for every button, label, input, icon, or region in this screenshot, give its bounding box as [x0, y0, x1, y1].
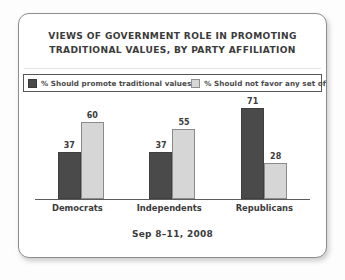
bar-value-label: 37 [146, 141, 176, 150]
chart-card: VIEWS OF GOVERNMENT ROLE IN PROMOTING TR… [18, 13, 327, 258]
bar[interactable] [149, 152, 172, 199]
chart-title-line-1: VIEWS OF GOVERNMENT ROLE IN PROMOTING [19, 30, 326, 44]
chart-title-line-2: TRADITIONAL VALUES, BY PARTY AFFILIATION [19, 44, 326, 58]
bar-value-label: 60 [77, 111, 107, 120]
bar-value-label: 28 [261, 152, 291, 161]
bar-column: 60 [81, 98, 104, 199]
bar-group: 7128 [241, 98, 287, 199]
bar[interactable] [264, 163, 287, 199]
bar-column: 71 [241, 98, 264, 199]
legend-swatch-light-icon [191, 79, 200, 88]
chart-legend: % Should promote traditional values % Sh… [23, 74, 322, 92]
title-divider [24, 68, 321, 69]
chart-footer-date: Sep 8–11, 2008 [19, 229, 326, 239]
bar-value-label: 71 [238, 97, 268, 106]
plot-area: 376037557128 DemocratsIndependentsRepubl… [23, 98, 322, 216]
chart-screenshot: VIEWS OF GOVERNMENT ROLE IN PROMOTING TR… [0, 0, 345, 280]
bar[interactable] [81, 122, 104, 199]
bar-value-label: 55 [169, 118, 199, 127]
bar-group: 3760 [58, 98, 104, 199]
legend-label-not-favor: % Should not favor any set of values [204, 79, 327, 88]
bar[interactable] [58, 152, 81, 199]
bar-column: 37 [149, 98, 172, 199]
bar-groups: 376037557128 [35, 98, 310, 199]
category-labels: DemocratsIndependentsRepublicans [35, 200, 310, 216]
bar-column: 28 [264, 98, 287, 199]
category-label: Republicans [236, 203, 293, 213]
bar-column: 55 [172, 98, 195, 199]
legend-item-not-favor[interactable]: % Should not favor any set of values [191, 79, 327, 88]
legend-item-promote[interactable]: % Should promote traditional values [28, 79, 191, 88]
chart-title: VIEWS OF GOVERNMENT ROLE IN PROMOTING TR… [19, 30, 326, 57]
legend-label-promote: % Should promote traditional values [41, 79, 191, 88]
bar-value-label: 37 [54, 141, 84, 150]
category-label: Independents [137, 203, 202, 213]
bar-group: 3755 [149, 98, 195, 199]
category-label: Democrats [52, 203, 103, 213]
bar[interactable] [172, 129, 195, 199]
legend-swatch-dark-icon [28, 79, 37, 88]
